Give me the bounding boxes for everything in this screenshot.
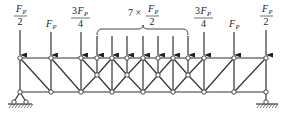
- sub-diagonal: [127, 75, 143, 92]
- load-label-right-half: F P 2: [260, 3, 273, 27]
- diagonal-member: [51, 58, 81, 92]
- diagonal-member: [234, 58, 266, 92]
- bottom-node: [110, 90, 114, 94]
- sub-diagonal: [158, 75, 173, 92]
- truss-members: [20, 58, 266, 92]
- top-node: [95, 56, 99, 60]
- label-sub: P: [154, 8, 159, 15]
- group-multiplier: 7 ×: [128, 7, 141, 18]
- load-label-left-three-quarter: 3 F P 4: [71, 5, 90, 29]
- label-den: 2: [18, 16, 23, 27]
- sub-diagonal: [127, 58, 143, 75]
- top-node: [171, 56, 175, 60]
- bottom-node: [141, 90, 145, 94]
- top-node: [110, 56, 114, 60]
- bottom-node: [202, 90, 206, 94]
- bottom-node: [171, 90, 175, 94]
- top-node: [141, 56, 145, 60]
- support-node: [264, 100, 268, 104]
- load-label-right-three-quarter: 3 F P 4: [194, 5, 213, 29]
- top-node: [18, 56, 22, 60]
- label-den: 4: [78, 18, 83, 29]
- label-coef: 3: [195, 5, 200, 16]
- label-sub: P: [235, 23, 240, 30]
- top-node: [79, 56, 83, 60]
- mid-node: [156, 73, 160, 77]
- label-sub: P: [206, 10, 211, 17]
- sub-diagonal: [143, 75, 158, 92]
- bottom-node: [232, 90, 236, 94]
- sub-diagonal: [97, 58, 112, 75]
- bottom-node: [79, 90, 83, 94]
- sub-diagonal: [81, 75, 97, 92]
- label-sub: P: [52, 23, 57, 30]
- load-label-left-half: F P 2: [14, 3, 27, 27]
- top-node: [125, 56, 129, 60]
- load-label-left-full: F P: [45, 18, 57, 30]
- label-den: 2: [150, 16, 155, 27]
- label-den: 2: [264, 16, 269, 27]
- load-group-brace: [97, 25, 188, 35]
- label-sub: P: [83, 10, 88, 17]
- top-node: [264, 56, 268, 60]
- label-coef: 3: [72, 5, 77, 16]
- load-arrows: [20, 30, 266, 55]
- mid-node: [125, 73, 129, 77]
- mid-node: [95, 73, 99, 77]
- bottom-node: [49, 90, 53, 94]
- sub-diagonal: [188, 58, 204, 75]
- diagonal-member: [20, 58, 51, 92]
- bottom-node: [264, 90, 268, 94]
- sub-diagonal: [143, 58, 158, 75]
- label-den: 4: [201, 18, 206, 29]
- bottom-node: [18, 90, 22, 94]
- label-sub: P: [268, 8, 273, 15]
- support-node: [12, 100, 16, 104]
- label-sub: P: [22, 8, 27, 15]
- truss-diagram: F P 2 F P 3 F P 4 7 × F P 2 3 F P 4 F P: [0, 0, 286, 118]
- top-node: [232, 56, 236, 60]
- support-node: [24, 100, 28, 104]
- top-node: [186, 56, 190, 60]
- sub-diagonal: [112, 75, 127, 92]
- sub-diagonal: [158, 58, 173, 75]
- sub-diagonal: [188, 75, 204, 92]
- load-label-right-full: F P: [228, 18, 240, 30]
- load-label-group: 7 × F P 2: [128, 3, 159, 27]
- sub-diagonal: [81, 58, 97, 75]
- diagonal-member: [204, 58, 234, 92]
- top-node: [49, 56, 53, 60]
- top-node: [202, 56, 206, 60]
- mid-node: [186, 73, 190, 77]
- sub-diagonal: [173, 58, 188, 75]
- sub-diagonal: [97, 75, 112, 92]
- sub-diagonal: [112, 58, 127, 75]
- sub-diagonal: [173, 75, 188, 92]
- top-node: [156, 56, 160, 60]
